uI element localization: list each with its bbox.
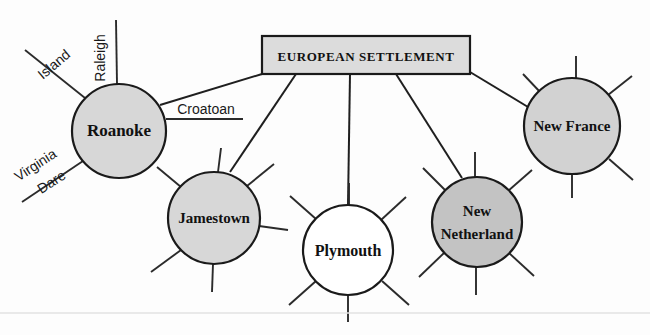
plymouth-label: Plymouth (315, 242, 382, 260)
spoke-label-raleigh: Raleigh (92, 34, 108, 81)
spoke-plymouth-top-left (290, 196, 316, 219)
spoke-new-netherland-top-right (508, 170, 532, 191)
node-new-france[interactable]: New France (524, 78, 620, 174)
node-new-netherland[interactable]: New Netherland (432, 177, 522, 267)
spoke-new-netherland-bottom-left (419, 253, 444, 277)
new-netherland-circle[interactable] (432, 177, 522, 267)
spoke-roanoke-raleigh (116, 20, 117, 84)
spoke-plymouth-bottom-right (382, 281, 409, 305)
hub-label: EUROPEAN SETTLEMENT (277, 49, 454, 64)
diagram-canvas: EUROPEAN SETTLEMENT Roanoke Jamestown Pl… (0, 0, 650, 335)
roanoke-label: Roanoke (87, 121, 152, 140)
spoke-plymouth-top-right (381, 197, 406, 220)
spoke-new-france-top-right (608, 76, 632, 95)
spoke-jamestown-bottom (212, 264, 213, 292)
node-jamestown[interactable]: Jamestown (168, 172, 260, 264)
hub-node[interactable]: EUROPEAN SETTLEMENT (262, 36, 470, 74)
connector-hub-new-netherland (396, 74, 462, 178)
new-netherland-label-line1: New (463, 203, 491, 219)
new-france-label: New France (533, 118, 610, 134)
spoke-jamestown-right (259, 226, 288, 230)
spoke-new-netherland-bottom-right (509, 253, 534, 276)
node-roanoke[interactable]: Roanoke (72, 84, 166, 178)
spoke-label-croatoan: Croatoan (177, 101, 235, 117)
spoke-jamestown-bottom-left (151, 250, 181, 272)
spoke-plymouth-bottom-left (289, 281, 316, 305)
spoke-new-france-top-left (523, 74, 541, 93)
spoke-jamestown-top-left (157, 167, 181, 187)
spoke-jamestown-top (218, 148, 221, 172)
jamestown-label: Jamestown (178, 210, 250, 226)
connector-hub-new-france (470, 72, 528, 107)
connector-hub-jamestown (230, 74, 296, 172)
spoke-new-netherland-top-left (423, 168, 446, 191)
concept-map-diagram: EUROPEAN SETTLEMENT Roanoke Jamestown Pl… (0, 0, 650, 335)
spoke-new-france-bottom-right (609, 159, 633, 180)
node-plymouth[interactable]: Plymouth (303, 205, 393, 295)
new-netherland-label-line2: Netherland (441, 226, 514, 242)
spoke-jamestown-top-right (247, 164, 274, 186)
spoke-label-island: Island (34, 46, 73, 82)
